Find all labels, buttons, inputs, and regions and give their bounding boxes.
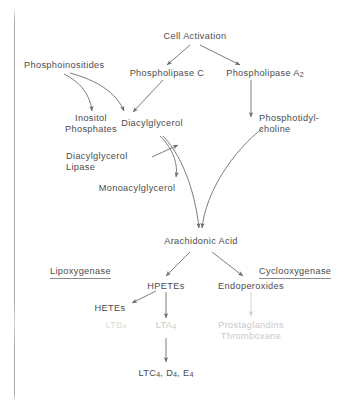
lta4-subscript: 4 [172,322,176,331]
ltb4-subscript: 4 [123,322,127,331]
node-arachidonic-acid: Arachidonic Acid [164,236,238,247]
phosphotidylcholine-line2: choline [259,124,319,135]
diacylglycerol-lipase-line1: Diacylglycerol [66,151,128,162]
node-phosphotidylcholine: Phosphotidyl- choline [259,113,319,134]
node-ltb4: LTB4 [105,320,126,333]
node-cell-activation: Cell Activation [164,31,227,42]
arrow-hpetes-to-hetes [132,291,156,303]
node-phospholipase-a2: Phospholipase A2 [226,68,304,81]
thromboxane-label: Thromboxane [218,331,284,342]
inositol-phosphates-line1: Inositol [65,113,117,124]
node-monoacylglycerol: Monoacylglycerol [99,183,176,194]
node-diacylglycerol-lipase: Diacylglycerol Lipase [66,151,128,172]
arrow-pi-to-dag [70,73,124,111]
arrow-plc-to-dag [133,80,163,112]
phosphotidylcholine-line1: Phosphotidyl- [259,113,319,124]
node-phosphoinositides: Phosphoinositides [24,60,105,71]
node-lipoxygenase: Lipoxygenase [50,266,111,279]
node-phospholipase-c: Phospholipase C [130,68,205,79]
arrow-cellactivation-to-plc [167,45,190,65]
lte4-subscript: 4 [189,370,193,379]
arrow-aa-to-endoperoxides [212,252,243,276]
inositol-phosphates-line2: Phosphates [65,124,117,135]
node-diacylglycerol: Diacylglycerol [121,118,183,129]
node-inositol-phosphates: Inositol Phosphates [65,113,117,134]
node-ltc4-d4-e4: LTC4, D4, E4 [139,368,194,381]
pathway-diagram-page: Cell Activation Phosphoinositides Phosph… [0,0,354,408]
diacylglycerol-lipase-line2: Lipase [66,162,128,173]
node-hetes: HETEs [95,303,126,314]
arrow-pi-to-ip [64,74,92,111]
arrow-cellactivation-to-pla2 [200,45,240,65]
node-prostaglandins-thromboxane: Prostaglandins Thromboxane [218,320,284,341]
arrow-pc-to-aa [202,128,263,228]
node-hpetes: HPETEs [147,281,184,292]
phospholipase-a2-subscript: 2 [300,70,304,79]
prostaglandins-label: Prostaglandins [218,320,284,331]
arrow-aa-to-hpetes [166,252,190,276]
node-endoperoxides: Endoperoxides [218,281,284,292]
node-lta4: LTA4 [156,320,177,333]
node-cyclooxygenase: Cyclooxygenase [259,266,331,279]
